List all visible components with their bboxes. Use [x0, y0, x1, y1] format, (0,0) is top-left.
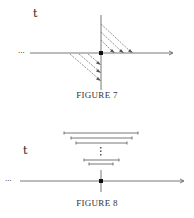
- figure-8-caption: FIGURE 8: [76, 198, 118, 208]
- lower-arrowheads: [96, 61, 101, 81]
- figure-7-caption: FIGURE 7: [76, 90, 118, 100]
- lower-hatch: [70, 54, 100, 80]
- t-axis-label: t: [33, 7, 38, 20]
- vertical-ellipsis: [100, 147, 102, 156]
- upper-arrowheads: [110, 49, 133, 53]
- origin-point: [99, 179, 103, 183]
- figure-8: t ··· FIGURE 8: [5, 132, 184, 209]
- figures-canvas: t ··· FIGURE 7: [0, 0, 194, 218]
- left-ellipsis: ···: [5, 177, 12, 185]
- left-ellipsis: ···: [18, 49, 25, 57]
- figure-7: t ··· FIGURE 7: [18, 7, 173, 100]
- upper-hatch: [101, 24, 131, 52]
- t-axis-label: t: [23, 144, 28, 157]
- origin-point: [99, 51, 103, 55]
